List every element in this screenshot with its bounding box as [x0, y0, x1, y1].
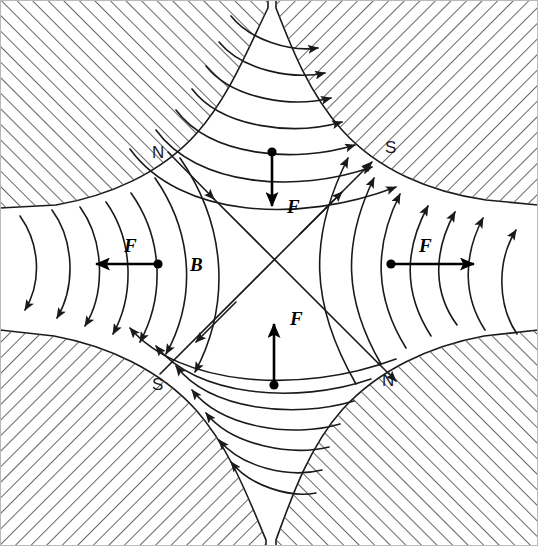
pole-bottom-right [270, 326, 538, 546]
field-line-diagonal-nw-tail [212, 197, 380, 365]
field-line [80, 207, 99, 326]
field-line [52, 210, 70, 318]
force-top-label: F [286, 196, 300, 217]
field-line [439, 212, 457, 325]
pole-bottom-left-hatch [0, 326, 270, 546]
pole-bottom-left [0, 326, 270, 546]
pole-label-bottom-left: S [152, 375, 163, 394]
pole-pieces [0, 0, 538, 546]
magnetic-field-diagram: F F F F N S S N B [0, 0, 538, 546]
force-right-label: F [418, 235, 432, 256]
pole-label-top-left: N [152, 143, 164, 162]
diagram-canvas: F F F F N S S N B [0, 0, 538, 546]
field-line [192, 390, 340, 430]
field-line [106, 202, 128, 334]
force-left-label: F [123, 235, 137, 256]
force-vector-bottom: F [269, 308, 303, 390]
pole-bottom-right-hatch [270, 326, 538, 546]
pole-label-bottom-right: N [382, 371, 394, 390]
pole-top-right [270, 0, 538, 210]
field-line [502, 230, 517, 334]
pole-top-left [0, 0, 270, 212]
field-line [320, 158, 356, 384]
force-bottom-label: F [289, 308, 303, 329]
field-label-b: B [189, 254, 203, 275]
field-line-diagonal-ne-arrow-2 [300, 192, 342, 234]
field-line [352, 178, 381, 364]
pole-label-top-right: S [385, 138, 396, 157]
field-line [381, 194, 406, 348]
field-line-diagonal-nw [168, 152, 214, 199]
field-line [20, 216, 36, 310]
field-line [176, 366, 354, 410]
field-line [131, 193, 157, 342]
force-vectors: F F F F [96, 147, 474, 389]
field-line [468, 218, 485, 330]
field-line [130, 328, 396, 380]
field-line [206, 413, 329, 450]
pole-top-right-hatch [270, 0, 538, 210]
field-line [410, 206, 431, 336]
field-line [156, 346, 371, 393]
force-vector-right: F [386, 235, 474, 269]
